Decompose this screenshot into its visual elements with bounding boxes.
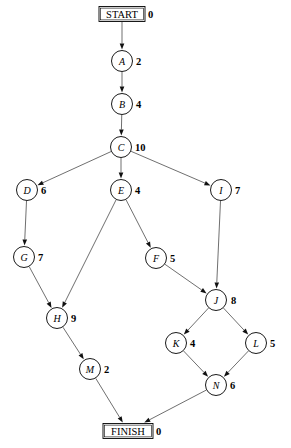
- node-f[interactable]: F5: [146, 248, 176, 269]
- edge-i-to-j: [215, 201, 221, 289]
- node-label: START: [106, 9, 138, 20]
- node-b[interactable]: B4: [112, 94, 143, 115]
- edge-line: [126, 200, 148, 243]
- arrowhead-icon: [119, 173, 124, 179]
- edge-start-to-a: [120, 22, 125, 50]
- arrowhead-icon: [120, 44, 125, 50]
- edge-b-to-c: [119, 115, 124, 136]
- node-weight-label: 5: [270, 338, 275, 349]
- node-weight-label: 0: [156, 426, 161, 437]
- arrowhead-icon: [79, 353, 84, 359]
- edge-m-to-finish: [96, 378, 123, 422]
- edge-line: [228, 351, 248, 372]
- arrowhead-icon: [215, 282, 220, 288]
- edge-h-to-m: [63, 327, 84, 359]
- node-n[interactable]: N6: [206, 375, 236, 396]
- edge-line: [29, 267, 48, 303]
- node-label: C: [118, 142, 125, 153]
- node-c[interactable]: C10: [111, 137, 146, 158]
- node-label: F: [152, 253, 160, 264]
- node-label: K: [172, 338, 181, 349]
- edge-line: [165, 264, 202, 290]
- edge-line: [43, 152, 111, 183]
- edge-f-to-j: [165, 264, 207, 293]
- node-weight-label: 7: [235, 185, 240, 196]
- node-weight-label: 7: [38, 252, 43, 263]
- node-j[interactable]: J8: [206, 290, 237, 311]
- edge-e-to-h: [62, 200, 116, 308]
- arrowhead-icon: [146, 241, 151, 247]
- node-label: D: [22, 185, 31, 196]
- edge-line: [65, 200, 116, 303]
- node-weight-label: 0: [148, 9, 153, 20]
- node-weight-label: 2: [136, 56, 141, 67]
- arrowhead-icon: [62, 301, 67, 307]
- node-weight-label: 9: [71, 313, 76, 324]
- node-k[interactable]: K4: [166, 333, 197, 354]
- edge-e-to-f: [126, 200, 151, 248]
- node-l[interactable]: L5: [246, 333, 276, 354]
- node-start[interactable]: START0: [99, 7, 153, 22]
- edge-line: [223, 308, 244, 330]
- edge-l-to-n: [224, 351, 248, 377]
- edge-line: [217, 201, 221, 283]
- arrowhead-icon: [144, 418, 150, 423]
- edge-j-to-l: [223, 308, 248, 335]
- node-e[interactable]: E4: [111, 180, 142, 201]
- node-label: G: [20, 252, 27, 263]
- node-g[interactable]: G7: [14, 247, 44, 268]
- arrowhead-icon: [200, 288, 206, 293]
- node-weight-label: 4: [136, 99, 142, 110]
- node-weight-label: 2: [104, 364, 109, 375]
- edge-line: [131, 151, 205, 183]
- edge-c-to-d: [37, 152, 111, 186]
- node-finish[interactable]: FINISH0: [103, 424, 161, 439]
- node-label: L: [252, 338, 259, 349]
- edge-d-to-g: [22, 201, 27, 246]
- node-label: J: [214, 295, 219, 306]
- node-label: FINISH: [111, 426, 145, 437]
- arrowhead-icon: [118, 416, 123, 422]
- edge-n-to-finish: [144, 390, 206, 422]
- edge-line: [188, 308, 209, 330]
- node-weight-label: 5: [170, 253, 175, 264]
- edge-line: [184, 351, 204, 372]
- node-weight-label: 6: [41, 185, 46, 196]
- edge-k-to-n: [184, 351, 208, 377]
- node-label: E: [117, 185, 124, 196]
- edge-a-to-b: [120, 72, 125, 93]
- arrowhead-icon: [47, 302, 52, 308]
- edge-line: [96, 378, 120, 417]
- node-weight-label: 4: [190, 338, 196, 349]
- node-label: I: [218, 185, 223, 196]
- node-label: N: [212, 380, 221, 391]
- arrowhead-icon: [204, 181, 210, 185]
- edge-g-to-h: [29, 267, 51, 308]
- edge-line: [63, 327, 81, 354]
- edge-j-to-k: [184, 308, 209, 335]
- node-weight-label: 10: [135, 142, 146, 153]
- graph-diagram-canvas: START0A2B4C10D6E4I7G7F5J8H9K4L5M2N6FINIS…: [0, 0, 291, 448]
- node-m[interactable]: M2: [80, 359, 110, 380]
- node-label: B: [119, 99, 125, 110]
- edge-line: [150, 390, 207, 420]
- arrowhead-icon: [120, 87, 125, 93]
- edge-line: [25, 201, 27, 240]
- node-i[interactable]: I7: [211, 180, 241, 201]
- node-a[interactable]: A2: [112, 51, 142, 72]
- edge-c-to-e: [119, 158, 124, 179]
- edges-layer: [22, 22, 248, 423]
- nodes-layer: START0A2B4C10D6E4I7G7F5J8H9K4L5M2N6FINIS…: [14, 7, 276, 439]
- arrowhead-icon: [22, 239, 27, 245]
- node-weight-label: 8: [231, 295, 236, 306]
- node-label: A: [118, 56, 126, 67]
- edge-c-to-i: [131, 151, 210, 185]
- arrowhead-icon: [119, 129, 124, 135]
- node-weight-label: 4: [135, 185, 141, 196]
- node-label: H: [52, 313, 61, 324]
- graph-svg: START0A2B4C10D6E4I7G7F5J8H9K4L5M2N6FINIS…: [0, 0, 291, 448]
- node-weight-label: 6: [230, 380, 235, 391]
- node-label: M: [85, 364, 95, 375]
- node-h[interactable]: H9: [47, 308, 77, 329]
